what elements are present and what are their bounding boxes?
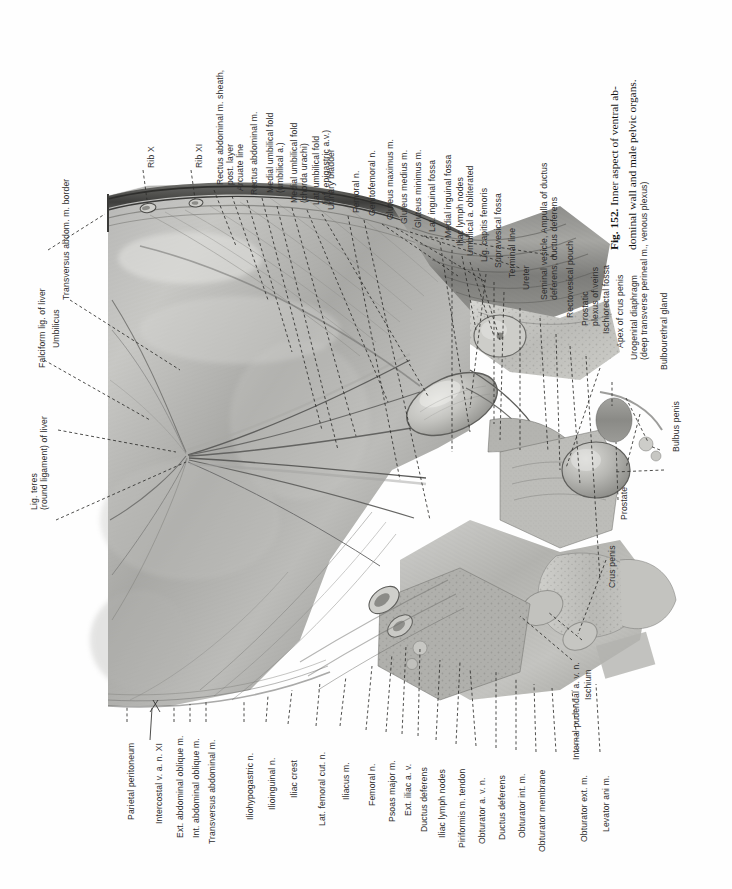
label-transversus-border: Transversus abdom. m. border (62, 179, 71, 300)
rib-xi-section (189, 198, 204, 207)
label-psoas-major: Psoas major m. (388, 760, 397, 822)
femoral-head (474, 315, 526, 357)
label-rectus-abdominal: Rectus abdominal m. (250, 111, 259, 195)
label-ischiorectal-fossa: Ischiorectal fossa (602, 265, 611, 334)
label-ilioinguinal-n: Ilioinguinal n. (268, 758, 277, 810)
umbilical-folds (188, 354, 426, 566)
seminal-vesicle-region (488, 418, 572, 468)
iliac-vessels-nodes (364, 581, 427, 670)
figure-number: Fig. 152. (608, 209, 620, 250)
label-crus-penis: Crus penis (608, 545, 617, 588)
label-lig-teres: Lig. teres (round ligament) of liver (30, 416, 49, 510)
label-gluteus-minimus: Gluteus minimus m. (414, 149, 423, 228)
urogenital-diaphragm-line (600, 392, 662, 430)
label-obturator-avn: Obturator a. v. n. (478, 777, 487, 844)
bulbourethral-gland-shape (639, 437, 653, 451)
label-ischium: Ischium (584, 669, 593, 700)
label-umbilicus: Umbilicus (52, 309, 61, 348)
falciform-ligament-fold (110, 300, 187, 620)
illustration-canvas (0, 0, 732, 889)
label-rib-xi: Rib XI (195, 144, 204, 168)
label-prostate: Prostate (620, 487, 629, 520)
urinary-bladder-shape (397, 360, 507, 448)
label-ext-iliac-av: Ext. iliac a. v. (404, 764, 413, 816)
label-lat-femoral-cut-n: Lat. femoral cut. n. (318, 752, 327, 826)
label-internal-pudendal: Internal pudendal a. v. n. (572, 662, 581, 760)
label-gluteus-medius: Gluteus medius m. (400, 150, 409, 224)
label-femoral-n-bottom: Femoral n. (368, 763, 377, 806)
label-bulbourethral-gland: Bulbourethral gland (660, 293, 669, 370)
caption-text-1: Inner aspect of ventral ab- (608, 86, 620, 208)
label-rectovesical-pouch: Rectovesical pouch (566, 241, 575, 318)
label-transversus-abdominal: Transversus abdominal m. (208, 739, 217, 844)
label-obturator-membrane: Obturator membrane (538, 770, 547, 852)
label-urinary-bladder: Urinary bladder (327, 149, 336, 210)
label-iliac-lymph-nodes-top: Iliac lymph nodes (456, 177, 465, 246)
figure-caption-line2: dominal wall and male pelvic organs. (625, 79, 639, 250)
label-rectus-sheath: Rectus abdominal m. sheath, post. layer (216, 70, 235, 185)
fovea-capitis (497, 333, 504, 340)
label-iliac-crest: Iliac crest (290, 760, 299, 798)
label-medial-inguinal-fossa: Medial inguinal fossa (444, 155, 453, 238)
ischiorectal-fossa-shape (538, 553, 648, 638)
label-obturator-int: Obturator int. m. (518, 773, 527, 838)
label-iliohypogastric-n: Iliohypogastric n. (246, 753, 255, 820)
label-ductus-deferens-2: Ductus deferens (498, 775, 507, 840)
abdominal-wall-region (108, 183, 470, 706)
label-femoral-n-top: Femoral n. (352, 170, 361, 213)
label-medial-umbilical-a: Medial umbilical fold (umbilical a.) (266, 112, 285, 193)
perineal-detail (620, 559, 676, 628)
label-arcuate-line: Arcuate line (236, 144, 245, 191)
label-seminal-vesicle: Seminal vesicle, Ampulla of ductus defer… (540, 163, 559, 300)
label-parietal-peritoneum: Parietal peritoneum (127, 743, 136, 820)
crus-penis-left (515, 584, 569, 633)
label-lig-capitis-femoris: Lig. capitis femoris (480, 188, 489, 262)
label-apex-crus-penis: Apex of crus penis (616, 275, 625, 348)
prostate-shape (596, 398, 632, 442)
label-rib-x: Rib X (147, 146, 156, 168)
anatomical-plate: Rib X Rib XI Rectus abdominal m. sheath,… (0, 0, 732, 889)
label-gluteus-maximus: Gluteus maximus m. (386, 139, 395, 220)
label-bulbus-penis: Bulbus penis (672, 401, 681, 452)
label-ureter: Ureter (522, 265, 531, 290)
levator-ani-block (596, 632, 655, 679)
label-lat-inguinal-fossa: Lat. inguinal fossa (428, 160, 437, 232)
crus-penis-right (558, 616, 602, 656)
label-obturator-ext: Obturator ext. m. (580, 775, 589, 842)
label-ductus-deferens-1: Ductus deferens (420, 767, 429, 832)
rectovesical-block (500, 430, 620, 548)
illustration-body (90, 182, 676, 706)
label-int-abdominal-oblique: Int. abdominal oblique m. (192, 738, 201, 838)
psoas-iliacus-bands (300, 580, 464, 690)
label-iliacus-m: Iliacus m. (342, 762, 351, 800)
label-levator-ani: Levator ani m. (602, 775, 611, 832)
label-piriformis-tendon: Piriformis m. tendon (458, 769, 467, 848)
label-medial-umbilical-chorda: Medial umbilical fold (chorda urachi) (290, 122, 309, 203)
label-terminal-line: Terminal line (508, 228, 517, 278)
label-intercostal-xi: Intercostal v. a. n. XI (155, 743, 164, 824)
inguinal-bands (130, 512, 396, 700)
label-ext-abdominal-oblique: Ext. abdominal oblique m. (176, 735, 185, 838)
figure-caption-line1: Fig. 152. Inner aspect of ventral ab- (607, 86, 621, 250)
label-prostatic-plexus: Prostatic plexus of veins (581, 267, 600, 326)
label-genitofemoral-n: Genitofemoral n. (368, 150, 377, 216)
label-iliac-lymph-nodes-bottom: Iliac lymph nodes (438, 769, 447, 838)
label-umbilical-a-obliterated: Umbilical a. obliterated (466, 165, 475, 256)
label-falciform-lig: Falciform lig. of liver (38, 288, 47, 368)
obturator-block (378, 568, 530, 700)
ureter-line (470, 370, 540, 436)
label-supravesical-fossa: Supravesical fossa (494, 193, 503, 268)
rib-x-section (139, 202, 156, 213)
